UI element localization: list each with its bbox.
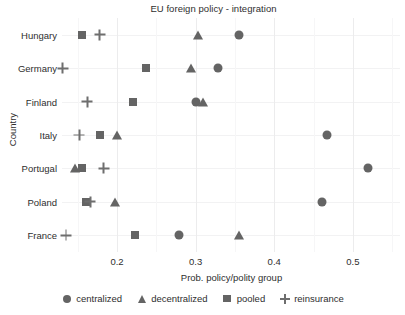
x-tick-label: 0.2 [110,256,123,267]
data-point-reinsurance-italy[interactable] [74,130,85,141]
legend-item-reinsurance[interactable]: reinsurance [279,293,344,304]
data-point-decentralized-france[interactable] [234,231,244,240]
data-point-pooled-italy[interactable] [96,131,104,139]
x-tick-label: 0.5 [346,256,359,267]
data-point-reinsurance-france[interactable] [60,230,71,241]
y-tick-label-hungary: Hungary [21,29,57,40]
x-tick-label: 0.4 [268,256,281,267]
x-minor-gridline [392,18,393,252]
x-axis-label: Prob. policy/polity group [62,272,401,283]
data-point-pooled-portugal[interactable] [78,164,86,172]
data-point-centralized-italy[interactable] [322,131,331,140]
data-point-centralized-poland[interactable] [318,197,327,206]
x-minor-gridline [156,18,157,252]
legend-label: pooled [237,293,266,304]
y-tick-label-portugal: Portugal [22,163,57,174]
data-point-centralized-france[interactable] [175,231,184,240]
data-point-centralized-hungary[interactable] [234,30,243,39]
y-tick-label-germany: Germany [18,63,57,74]
plot-panel [62,18,400,252]
row-gridline [62,35,400,36]
row-gridline [62,235,400,236]
triangle-icon [136,293,147,304]
data-point-decentralized-italy[interactable] [112,131,122,140]
legend-label: centralized [76,293,122,304]
x-tick-label: 0.3 [189,256,202,267]
row-gridline [62,68,400,69]
data-point-reinsurance-poland[interactable] [85,196,96,207]
circle-icon [61,293,72,304]
data-point-decentralized-hungary[interactable] [193,30,203,39]
x-major-gridline [196,18,197,252]
data-point-pooled-hungary[interactable] [78,31,86,39]
square-icon [222,293,233,304]
plus-icon [279,293,290,304]
y-tick-label-finland: Finland [26,96,57,107]
legend-item-decentralized[interactable]: decentralized [136,293,208,304]
data-point-decentralized-finland[interactable] [198,97,208,106]
data-point-reinsurance-portugal[interactable] [98,163,109,174]
data-point-centralized-portugal[interactable] [363,164,372,173]
legend-label: decentralized [151,293,208,304]
x-major-gridline [274,18,275,252]
row-gridline [62,102,400,103]
chart-legend: centralizeddecentralizedpooledreinsuranc… [0,293,405,304]
legend-item-pooled[interactable]: pooled [222,293,266,304]
row-gridline [62,168,400,169]
data-point-pooled-france[interactable] [131,231,139,239]
y-axis-label: Country [7,100,18,160]
data-point-pooled-germany[interactable] [142,64,150,72]
data-point-reinsurance-hungary[interactable] [94,29,105,40]
data-point-decentralized-poland[interactable] [110,197,120,206]
data-point-centralized-germany[interactable] [213,64,222,73]
x-minor-gridline [314,18,315,252]
data-point-reinsurance-finland[interactable] [82,96,93,107]
legend-label: reinsurance [294,293,344,304]
chart-container: EU foreign policy - integration Country … [0,0,405,315]
data-point-reinsurance-germany[interactable] [57,63,68,74]
data-point-pooled-finland[interactable] [129,98,137,106]
y-tick-label-france: France [27,230,57,241]
x-minor-gridline [235,18,236,252]
legend-item-centralized[interactable]: centralized [61,293,122,304]
data-point-decentralized-germany[interactable] [186,64,196,73]
y-tick-label-poland: Poland [27,196,57,207]
chart-title: EU foreign policy - integration [0,3,405,14]
y-tick-label-italy: Italy [40,130,57,141]
x-major-gridline [353,18,354,252]
